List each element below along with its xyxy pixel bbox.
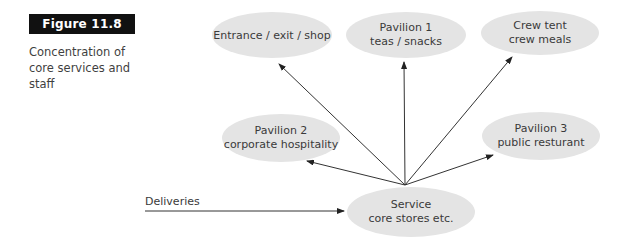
service-concentration-diagram: Entrance / exit / shop Pavilion 1 teas /… — [0, 0, 621, 238]
node-label: Crew tent — [513, 19, 567, 32]
deliveries-label: Deliveries — [145, 195, 200, 208]
node-pavilion-1: Pavilion 1 teas / snacks — [346, 12, 466, 58]
node-sublabel: corporate hospitality — [224, 138, 339, 151]
node-label: Entrance / exit / shop — [213, 29, 331, 42]
node-sublabel: core stores etc. — [369, 212, 454, 225]
node-pavilion-3: Pavilion 3 public resturant — [482, 112, 600, 160]
node-sublabel: teas / snacks — [370, 35, 442, 48]
node-sublabel: crew meals — [509, 33, 572, 46]
arrow-to-pavilion-2 — [307, 161, 405, 185]
node-pavilion-2: Pavilion 2 corporate hospitality — [222, 114, 340, 162]
arrow-to-pavilion-3 — [405, 155, 493, 185]
node-label: Pavilion 2 — [255, 124, 308, 137]
node-crew-tent: Crew tent crew meals — [481, 11, 599, 55]
node-label: Service — [391, 198, 432, 211]
arrow-to-pavilion-1 — [404, 62, 405, 185]
node-service-hub: Service core stores etc. — [347, 187, 475, 237]
node-label: Pavilion 3 — [515, 122, 568, 135]
node-sublabel: public resturant — [497, 136, 585, 149]
node-label: Pavilion 1 — [380, 21, 433, 34]
node-entrance: Entrance / exit / shop — [212, 12, 332, 58]
